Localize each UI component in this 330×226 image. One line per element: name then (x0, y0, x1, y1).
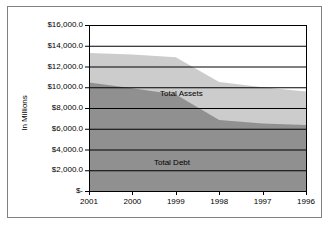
series-label-1: Total Assets (160, 90, 203, 98)
area-chart-canvas (8, 7, 323, 219)
chart-frame: In Millions $16,000.0$14,000.0$12,000.0$… (7, 6, 322, 218)
chart-plot-stage: In Millions $16,000.0$14,000.0$12,000.0$… (8, 7, 323, 219)
series-label-2: Total Debt (154, 159, 190, 167)
